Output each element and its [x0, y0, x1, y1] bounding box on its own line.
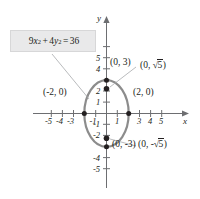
point-marker-bottom-vertex — [104, 144, 109, 149]
y-axis-label: y — [97, 14, 101, 23]
sqrt-icon-lower: √5 — [154, 140, 164, 150]
lower-focus-prefix: (0, - — [138, 139, 154, 149]
upper-focus-prefix: (0, — [140, 60, 153, 70]
point-marker-top-vertex — [104, 78, 109, 83]
point-marker-lower-focus — [104, 136, 110, 142]
x-tick-label-3: 3 — [137, 117, 141, 126]
equation-rhs: 36 — [70, 36, 80, 46]
point-label-left-vertex: (-2, 0) — [43, 88, 67, 98]
y-tick-label--4: -4 — [93, 154, 100, 163]
x-tick-label--5: -5 — [45, 117, 52, 126]
y-tick-label--2: -2 — [93, 131, 100, 140]
x-tick-label-5: 5 — [159, 117, 163, 126]
x-tick-label--3: -3 — [67, 117, 74, 126]
point-marker-left-vertex — [82, 111, 87, 116]
point-label-right-vertex: (2, 0) — [133, 88, 154, 98]
equation-callout-text: 9x2+4y2=36 — [12, 32, 96, 50]
x-tick-label-1: 1 — [115, 117, 119, 126]
y-tick-label-5: 5 — [96, 54, 100, 63]
point-label-bottom-vertex: (0, -3) — [112, 140, 136, 150]
x-axis-label: x — [183, 117, 187, 126]
point-marker-right-vertex — [126, 111, 131, 116]
ellipse-graph-figure: 9x2+4y2=36 x y -5 -4 -3 -1 1 3 4 5 5 4 2… — [0, 0, 200, 199]
y-axis-arrowhead — [103, 16, 109, 23]
point-label-upper-focus: (0, √5) — [140, 61, 166, 71]
equation-plus: + — [41, 36, 49, 46]
point-label-top-vertex: (0, 3) — [110, 58, 131, 68]
point-marker-upper-focus — [104, 86, 110, 92]
point-label-lower-focus: (0, -√5) — [138, 140, 167, 150]
x-tick-label--4: -4 — [56, 117, 63, 126]
sqrt-icon-upper: √5 — [153, 61, 163, 71]
y-tick-label-2: 2 — [96, 87, 100, 96]
x-tick-label-4: 4 — [148, 117, 152, 126]
y-tick-label-4: 4 — [96, 65, 100, 74]
upper-focus-leader-line — [110, 67, 136, 87]
lower-focus-suffix: ) — [164, 139, 167, 149]
upper-focus-suffix: ) — [163, 60, 166, 70]
y-tick-label--5: -5 — [93, 165, 100, 174]
y-tick-label-1: 1 — [96, 98, 100, 107]
y-tick-label--1: -1 — [93, 120, 100, 129]
equation-equals: = — [61, 36, 69, 46]
